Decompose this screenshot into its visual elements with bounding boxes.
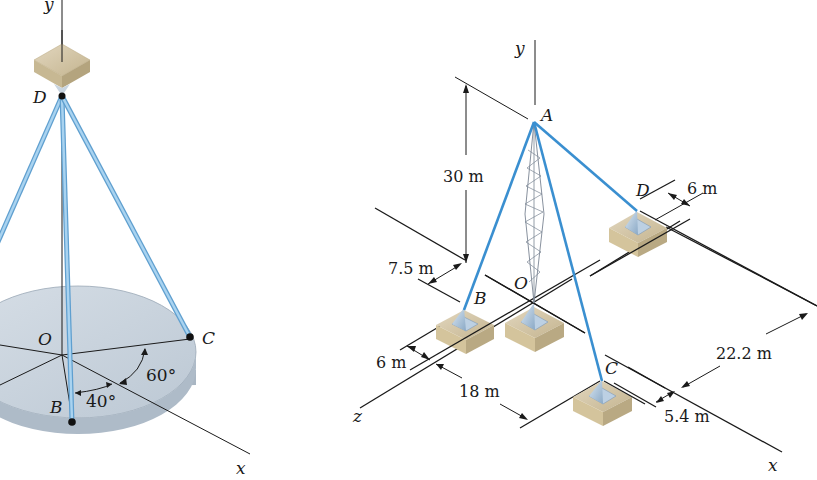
z-axis-label-right: z — [352, 406, 363, 426]
x-axis-label: x — [236, 458, 246, 478]
point-c — [186, 333, 194, 341]
grid-line — [628, 367, 665, 388]
grid-line — [418, 279, 460, 302]
point-a-label: A — [539, 105, 553, 125]
right-diagram: y 30 m x z 7.5 m — [352, 38, 817, 475]
footing-b — [436, 308, 494, 354]
footing-c — [573, 380, 632, 426]
point-d-label-right: D — [635, 180, 650, 200]
dim-6-left-label: 6 m — [376, 353, 406, 372]
disc — [0, 286, 196, 434]
dim-5-4-label: 5.4 m — [664, 407, 710, 426]
dim-18-label: 18 m — [459, 382, 500, 401]
height-dim-label: 30 m — [443, 167, 484, 186]
angle-40-label: 40° — [86, 391, 116, 411]
footing-d — [609, 210, 667, 257]
grid-line — [666, 227, 760, 276]
point-b-label-right: B — [473, 288, 487, 308]
point-b-label: B — [49, 397, 63, 417]
y-axis-label: y — [43, 0, 54, 14]
grid-line — [375, 208, 465, 260]
dim-6-right-label: 6 m — [687, 179, 717, 198]
x-axis-label-right: x — [768, 455, 778, 475]
dim-22-2-line-top — [766, 314, 806, 334]
y-axis-label-right: y — [514, 38, 525, 58]
point-d — [59, 93, 66, 100]
dim-7-5-label: 7.5 m — [388, 259, 434, 278]
point-o-label-right: O — [514, 273, 528, 293]
point-b — [68, 418, 76, 426]
point-c-label-right: C — [605, 358, 618, 378]
grid-line — [410, 260, 600, 370]
point-o-label: O — [38, 329, 52, 349]
point-d-label: D — [32, 87, 47, 107]
point-c-label: C — [202, 328, 215, 348]
left-diagram: y x 60° 40° — [0, 0, 250, 478]
dim-22-2-label: 22.2 m — [716, 344, 772, 363]
angle-60-label: 60° — [146, 365, 176, 385]
grid-line — [640, 211, 817, 306]
figure-canvas: y x 60° 40° — [0, 0, 817, 480]
